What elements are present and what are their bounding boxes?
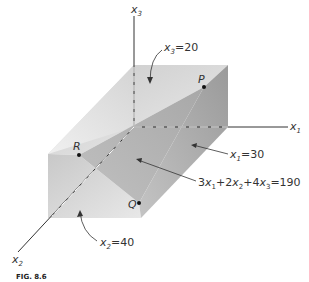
- x1-axis-label: x1: [289, 120, 301, 135]
- point-R-marker: [77, 153, 81, 157]
- x3-axis-label: x3: [130, 3, 142, 18]
- cut-plane-label: 3x1+2x2+4x3=190: [198, 176, 301, 191]
- figure-caption: FIG. 8.6: [16, 273, 47, 281]
- x3-plane-label: x3=20: [163, 41, 198, 56]
- x2-plane-label: x2=40: [99, 236, 134, 251]
- point-Q-marker: [137, 201, 141, 205]
- diagram-canvas: x3 x1 x2 P R Q x3=20 x1=30 3x1+2x2+4x3=1…: [0, 0, 309, 282]
- x2-axis-label: x2: [11, 253, 24, 268]
- x1-plane-label: x1=30: [229, 148, 264, 163]
- point-Q-label: Q: [128, 198, 137, 211]
- point-R-label: R: [73, 140, 81, 153]
- point-P-label: P: [198, 73, 205, 86]
